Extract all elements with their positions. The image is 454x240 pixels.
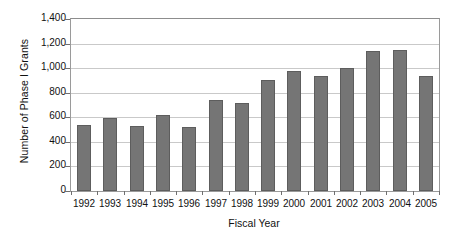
bar [366, 51, 380, 191]
bar [393, 50, 407, 191]
y-axis-tick-label: 600 [30, 111, 66, 121]
bar [287, 71, 301, 191]
bar [235, 103, 249, 191]
x-axis-tick-mark [150, 191, 151, 195]
bar [340, 68, 354, 191]
x-axis-tick-mark [229, 191, 230, 195]
bar [103, 118, 117, 191]
x-axis-tick-mark [360, 191, 361, 195]
y-axis-tick-label: 200 [30, 160, 66, 170]
x-axis-tick-mark [97, 191, 98, 195]
bar [156, 115, 170, 191]
x-axis-tick-mark [176, 191, 177, 195]
x-axis-ticks [70, 191, 440, 196]
x-axis-tick-mark [71, 191, 72, 195]
bar [209, 100, 223, 191]
y-axis-tick-label: 400 [30, 136, 66, 146]
x-axis-tick-mark [281, 191, 282, 195]
x-axis-tick-label: 2005 [409, 197, 443, 210]
y-axis-tick-label: 1,000 [30, 62, 66, 72]
y-axis-tick-label: 1,200 [30, 38, 66, 48]
x-axis-tick-mark [202, 191, 203, 195]
bar [419, 76, 433, 191]
x-axis-tick-mark [255, 191, 256, 195]
x-axis-tick-labels: 1992199319941995199619971998199920002001… [70, 197, 440, 211]
bar [130, 126, 144, 191]
x-axis-tick-mark [334, 191, 335, 195]
y-axis-tick-labels: 02004006008001,0001,2001,400 [30, 12, 66, 196]
bar-chart-figure: Number of Phase I Grants 02004006008001,… [0, 0, 454, 240]
bars-layer [71, 19, 439, 191]
x-axis-tick-mark [386, 191, 387, 195]
x-axis-title: Fiscal Year [70, 216, 438, 230]
bar [314, 76, 328, 191]
x-axis-tick-mark [413, 191, 414, 195]
bar [77, 125, 91, 191]
y-axis-tick-label: 0 [30, 185, 66, 195]
plot-area [70, 18, 440, 192]
y-axis-tick-label: 800 [30, 87, 66, 97]
x-axis-tick-mark [308, 191, 309, 195]
bar [261, 80, 275, 191]
x-axis-tick-mark [124, 191, 125, 195]
y-axis-tick-label: 1,400 [30, 13, 66, 23]
bar [182, 127, 196, 191]
x-axis-tick-mark [439, 191, 440, 195]
